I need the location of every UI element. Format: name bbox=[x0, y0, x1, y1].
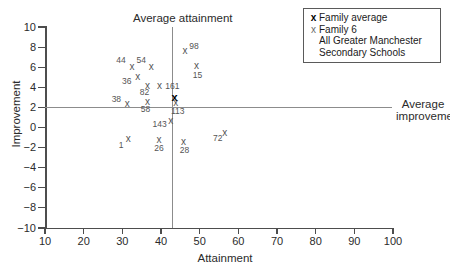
data-point-marker: x bbox=[157, 81, 162, 91]
data-point-label: 26 bbox=[154, 143, 163, 152]
data-point-label: 28 bbox=[180, 145, 189, 154]
legend-item: All Greater Manchester bbox=[308, 35, 436, 47]
y-tick-label: −4 bbox=[4, 162, 36, 173]
data-point-label: 54 bbox=[137, 56, 146, 65]
y-tick bbox=[38, 87, 45, 88]
x-tick bbox=[122, 228, 123, 234]
chart-legend: xFamily averagexFamily 6All Greater Manc… bbox=[303, 8, 441, 63]
x-tick bbox=[276, 228, 277, 234]
data-point-marker: x bbox=[130, 62, 135, 72]
y-tick bbox=[38, 147, 45, 148]
x-tick bbox=[160, 228, 161, 234]
x-axis-title: Attainment bbox=[0, 252, 450, 264]
legend-item: xFamily average bbox=[308, 12, 436, 24]
y-tick bbox=[38, 127, 45, 128]
data-point-label: 98 bbox=[189, 42, 198, 51]
data-point-label: 36 bbox=[122, 77, 131, 86]
legend-item: xFamily 6 bbox=[308, 24, 436, 36]
data-point-label: 82 bbox=[140, 88, 149, 97]
data-point-marker: x bbox=[168, 116, 173, 126]
y-tick-label: −6 bbox=[4, 182, 36, 193]
average-improvement-label: Average improvement bbox=[396, 98, 450, 122]
data-point-label: 15 bbox=[193, 71, 202, 80]
data-point-marker: x bbox=[182, 46, 187, 56]
x-tick bbox=[44, 228, 45, 234]
y-tick bbox=[38, 207, 45, 208]
data-point-label: 113 bbox=[171, 107, 185, 116]
data-point-marker: x bbox=[126, 134, 131, 144]
data-point-label: 58 bbox=[141, 105, 150, 114]
legend-marker-icon: x bbox=[308, 12, 319, 24]
y-tick bbox=[38, 107, 45, 108]
x-tick bbox=[199, 228, 200, 234]
x-tick bbox=[315, 228, 316, 234]
x-tick bbox=[354, 228, 355, 234]
average-improvement-label-line1: Average bbox=[396, 98, 450, 110]
x-tick-label: 90 bbox=[334, 236, 374, 247]
x-tick-label: 50 bbox=[180, 236, 220, 247]
x-axis-spine bbox=[44, 228, 394, 230]
data-point-marker: x bbox=[125, 99, 130, 109]
y-axis-title: Improvement bbox=[10, 69, 22, 159]
x-tick bbox=[83, 228, 84, 234]
y-tick-label: −8 bbox=[4, 202, 36, 213]
x-tick-label: 10 bbox=[25, 236, 65, 247]
family-average-marker: x bbox=[171, 92, 177, 102]
y-tick-label: 8 bbox=[4, 42, 36, 53]
x-tick-label: 70 bbox=[257, 236, 297, 247]
y-tick bbox=[38, 67, 45, 68]
y-tick-label: 10 bbox=[4, 22, 36, 33]
legend-item-label: Family 6 bbox=[319, 24, 357, 36]
data-point-marker: x bbox=[222, 128, 227, 138]
y-tick-label: −10 bbox=[4, 223, 36, 234]
x-tick-label: 30 bbox=[102, 236, 142, 247]
x-tick-label: 80 bbox=[296, 236, 336, 247]
data-point-label: 44 bbox=[116, 56, 125, 65]
data-point-label: 72 bbox=[213, 133, 222, 142]
y-tick bbox=[38, 187, 45, 188]
data-point-label: 1 bbox=[119, 140, 124, 149]
x-tick-label: 40 bbox=[141, 236, 181, 247]
x-tick-label: 20 bbox=[64, 236, 104, 247]
data-point-label: 143 bbox=[153, 120, 167, 129]
y-tick bbox=[38, 47, 45, 48]
data-point-label: 161 bbox=[165, 82, 179, 91]
scatter-chart: 1086420−2−4−6−8−10 102030405060708090100… bbox=[0, 0, 450, 280]
x-tick bbox=[238, 228, 239, 234]
legend-marker-icon: x bbox=[308, 24, 319, 36]
legend-item-label: Secondary Schools bbox=[308, 47, 405, 59]
y-axis-spine bbox=[45, 26, 47, 229]
y-tick bbox=[38, 26, 45, 27]
data-point-label: 38 bbox=[112, 95, 121, 104]
data-point-marker: x bbox=[149, 62, 154, 72]
y-tick bbox=[38, 167, 45, 168]
average-attainment-line bbox=[172, 27, 173, 228]
average-attainment-label: Average attainment bbox=[133, 12, 233, 24]
x-tick-label: 60 bbox=[218, 236, 258, 247]
average-improvement-line bbox=[45, 107, 392, 108]
legend-item-label: Family average bbox=[319, 12, 387, 24]
x-tick-label: 100 bbox=[373, 236, 413, 247]
average-improvement-label-line2: improvement bbox=[396, 110, 450, 122]
x-tick bbox=[392, 228, 393, 234]
legend-item: Secondary Schools bbox=[308, 47, 436, 59]
legend-item-label: All Greater Manchester bbox=[308, 35, 422, 47]
data-point-marker: x bbox=[135, 72, 140, 82]
